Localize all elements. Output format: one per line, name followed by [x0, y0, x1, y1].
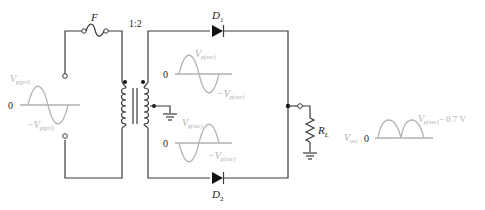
- diode-d2-label: D2: [211, 188, 224, 203]
- svg-text:Vp(sec): Vp(sec): [182, 117, 203, 130]
- load-resistor-label: RL: [317, 124, 329, 139]
- input-waveform: 0 Vp(pri) −Vp(pri): [8, 73, 80, 132]
- transformer-ratio: 1:2: [129, 18, 142, 29]
- primary-polarity-dot: [123, 80, 127, 84]
- primary-circuit: [63, 24, 122, 178]
- secondary-top-waveform: 0 Vp(sec) −Vp(sec): [163, 48, 245, 101]
- rectifier-diagram: F 1:2 D1 D2: [0, 0, 485, 210]
- svg-text:0: 0: [364, 133, 369, 144]
- secondary-polarity-dot: [141, 80, 145, 84]
- svg-text:−Vp(sec): −Vp(sec): [208, 150, 236, 163]
- diode-d2: [212, 172, 224, 184]
- svg-text:Vp(sec): Vp(sec): [195, 48, 216, 61]
- diode-d1: [212, 25, 224, 37]
- svg-text:0: 0: [163, 138, 168, 149]
- ground-icon: [303, 153, 317, 159]
- output-terminal: [298, 104, 303, 109]
- secondary-bottom-waveform: 0 Vp(sec) −Vp(sec): [163, 117, 236, 163]
- diode-d1-label: D1: [211, 9, 224, 24]
- svg-text:0: 0: [163, 69, 168, 80]
- svg-text:−Vp(pri): −Vp(pri): [27, 119, 54, 132]
- fuse-label: F: [90, 11, 98, 23]
- fuse-symbol: [82, 24, 108, 36]
- transformer-symbol: [122, 80, 171, 128]
- svg-text:−Vp(sec): −Vp(sec): [217, 88, 245, 101]
- svg-text:Vp(pri): Vp(pri): [10, 73, 30, 86]
- input-terminal-bottom: [63, 134, 68, 139]
- ground-icon: [163, 114, 177, 120]
- input-terminal-top: [63, 74, 68, 79]
- load-resistor: [306, 118, 314, 152]
- output-waveform: 0 Vout Vp(sec)− 0.7 V: [344, 113, 466, 144]
- svg-text:Vout: Vout: [344, 132, 358, 144]
- svg-text:0: 0: [8, 100, 13, 111]
- svg-text:Vp(sec)− 0.7 V: Vp(sec)− 0.7 V: [418, 113, 466, 126]
